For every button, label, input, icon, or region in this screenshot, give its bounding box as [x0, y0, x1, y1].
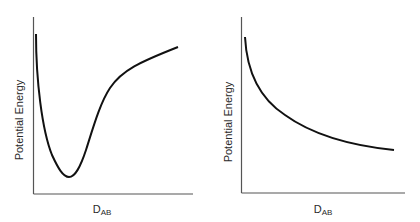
right-chart: Potential Energy DAB	[222, 17, 405, 217]
left-curve	[36, 34, 178, 177]
right-curve	[245, 37, 394, 150]
left-y-label: Potential Energy	[13, 79, 25, 160]
right-x-label: DAB	[314, 203, 333, 217]
figure: Potential Energy DAB Potential Energy DA…	[0, 0, 420, 222]
left-chart: Potential Energy DAB	[13, 17, 193, 217]
right-y-label: Potential Energy	[222, 81, 234, 162]
left-x-label: DAB	[93, 203, 112, 217]
